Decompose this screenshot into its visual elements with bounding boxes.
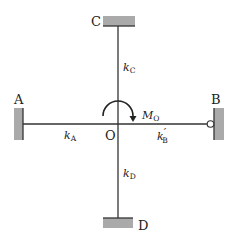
support-C [103,16,135,26]
moment-label: MO [141,109,159,123]
moment-arrow-icon [103,101,137,122]
stiffness-label-kD: kD [123,167,136,181]
stiffness-label-kA: kA [64,129,77,143]
support-D [103,218,133,228]
support-A [14,108,23,140]
stiffness-label-kC: kC [123,61,136,75]
label-A: A [13,92,24,107]
joint-label-O: O [105,128,116,143]
label-B: B [211,92,221,107]
label-D: D [138,218,148,233]
support-B [207,108,224,140]
stiffness-label-kB: k′B [157,126,168,145]
frame-diagram: C D A B MO O kC kA k′B kD [0,0,237,248]
label-C: C [91,14,101,29]
hinge-icon [207,121,214,128]
